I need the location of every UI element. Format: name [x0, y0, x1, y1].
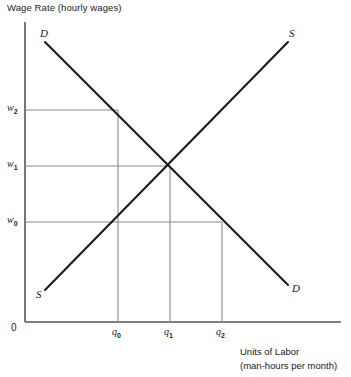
- x-tick-label-q1: q1: [164, 326, 173, 339]
- supply-curve-label-bottom: S: [36, 288, 42, 300]
- y-tick-w1-base: w: [7, 158, 14, 169]
- figure-canvas: [0, 0, 351, 377]
- y-tick-w2-base: w: [7, 102, 14, 113]
- x-axis-caption-line2: (man-hours per month): [240, 359, 337, 373]
- labor-market-supply-demand-figure: Wage Rate (hourly wages) D S D S w2 w1 w…: [0, 0, 351, 377]
- x-tick-label-q2: q2: [216, 326, 225, 339]
- y-tick-label-w2: w2: [7, 102, 18, 115]
- x-tick-q0-subscript: 0: [117, 332, 121, 339]
- y-tick-w2-subscript: 2: [14, 108, 18, 115]
- x-tick-q1-subscript: 1: [169, 332, 173, 339]
- y-tick-label-w0: w0: [7, 214, 18, 227]
- demand-curve-label-top: D: [40, 27, 48, 39]
- x-tick-q2-subscript: 2: [221, 332, 225, 339]
- x-axis-caption: Units of Labor (man-hours per month): [240, 345, 337, 372]
- demand-curve-label-bottom: D: [292, 282, 300, 294]
- x-tick-label-q0: q0: [112, 326, 121, 339]
- y-tick-w0-base: w: [7, 214, 14, 225]
- y-tick-w1-subscript: 1: [14, 164, 18, 171]
- x-axis-caption-line1: Units of Labor: [240, 345, 337, 359]
- y-tick-label-w1: w1: [7, 158, 18, 171]
- supply-curve-label-top: S: [289, 27, 295, 39]
- y-tick-w0-subscript: 0: [14, 220, 18, 227]
- origin-label: 0: [11, 322, 17, 333]
